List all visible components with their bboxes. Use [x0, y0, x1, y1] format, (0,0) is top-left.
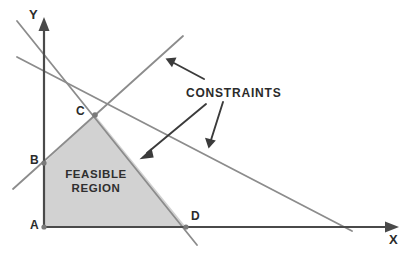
vertex-label-a: A	[30, 219, 39, 232]
y-axis-arrowhead	[39, 17, 50, 31]
vertex-label-b: B	[30, 154, 39, 167]
callout-pointer-3-head	[205, 138, 216, 149]
callout-pointer-2-head	[140, 148, 154, 159]
x-axis-arrowhead	[385, 222, 399, 233]
vertex-label-d: D	[191, 210, 200, 223]
diagram-canvas	[0, 0, 415, 259]
vertex-dot-c	[92, 112, 98, 118]
feasible-region-label-line1: FEASIBLE	[60, 168, 132, 180]
feasible-region-diagram: Y X A B C D FEASIBLE REGION CONSTRAINTS	[0, 0, 415, 259]
vertex-dot-a	[41, 224, 46, 229]
vertex-dot-d	[183, 224, 188, 229]
vertex-dot-b	[41, 160, 46, 165]
x-axis-label: X	[389, 233, 398, 247]
y-axis-label: Y	[29, 8, 38, 22]
feasible-region-label-line2: REGION	[60, 182, 132, 194]
callout-pointer-1-head	[166, 58, 177, 68]
vertex-label-c: C	[76, 105, 85, 118]
constraints-callout-label: CONSTRAINTS	[186, 87, 281, 100]
callout-pointer-3-shaft	[211, 102, 223, 140]
callout-pointer-1-shaft	[173, 63, 204, 80]
